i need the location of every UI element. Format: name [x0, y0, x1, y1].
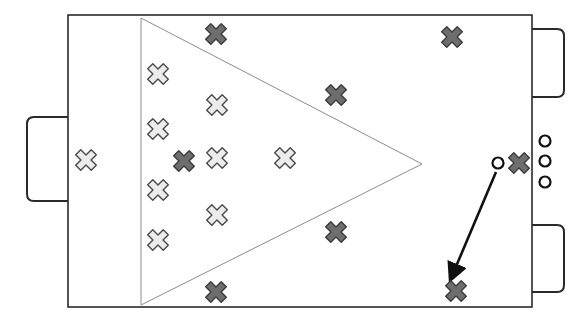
- drill-diagram: [0, 0, 588, 327]
- dark-x-marker-icon: [446, 281, 467, 302]
- markers-layer: [76, 24, 530, 303]
- circle-marker-icon: [540, 136, 551, 147]
- light-x-marker-icon: [148, 230, 169, 251]
- circle-marker-icon: [540, 156, 551, 167]
- dark-x-marker-icon: [326, 222, 347, 243]
- dark-x-marker-icon: [174, 151, 195, 172]
- light-x-marker-icon: [148, 119, 169, 140]
- light-x-marker-icon: [207, 205, 228, 226]
- left-goal: [27, 117, 68, 201]
- light-x-marker-icon: [76, 150, 97, 171]
- light-x-marker-icon: [207, 148, 228, 169]
- dark-x-marker-icon: [326, 85, 347, 106]
- light-x-marker-icon: [207, 95, 228, 116]
- field-layer: [68, 15, 532, 307]
- goals-layer: [27, 29, 564, 292]
- light-x-marker-icon: [275, 148, 296, 169]
- pass-arrow: [452, 172, 496, 276]
- circle-marker-icon: [493, 158, 504, 169]
- dark-x-marker-icon: [442, 27, 463, 48]
- circle-marker-icon: [540, 177, 551, 188]
- light-x-marker-icon: [148, 180, 169, 201]
- dark-x-marker-icon: [206, 24, 227, 45]
- right-top-goal: [532, 29, 564, 97]
- field-diagram-canvas: [0, 0, 588, 327]
- field-boundary: [68, 15, 532, 307]
- light-x-marker-icon: [148, 64, 169, 85]
- arrows-layer: [452, 172, 496, 276]
- dark-x-marker-icon: [509, 153, 530, 174]
- right-bottom-goal: [532, 225, 564, 292]
- dark-x-marker-icon: [206, 282, 227, 303]
